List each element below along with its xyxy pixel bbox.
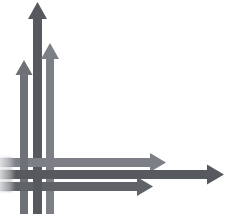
weave-center-below-bands	[33, 193, 42, 214]
left-edge-blur-middle	[0, 170, 12, 179]
weave-left-over-top-band	[20, 157, 28, 168]
weave-center-over-bottom-band	[33, 181, 42, 192]
left-edge-blur-top	[0, 158, 12, 167]
crossing-arrows-diagram	[0, 0, 229, 219]
left-edge-blur-bottom	[0, 182, 12, 191]
horizontal-arrow-middle-shaft	[0, 170, 211, 179]
weave-right-below-bands	[46, 193, 54, 214]
horizontal-arrow-bottom-shaft	[0, 182, 141, 191]
diagram-canvas	[0, 0, 229, 219]
left-edge-blur-layer	[0, 158, 12, 191]
weave-right-over-top-band	[46, 157, 54, 168]
vertical-arrow-left-shaft	[20, 71, 28, 214]
weave-left-below-bands	[20, 193, 28, 214]
